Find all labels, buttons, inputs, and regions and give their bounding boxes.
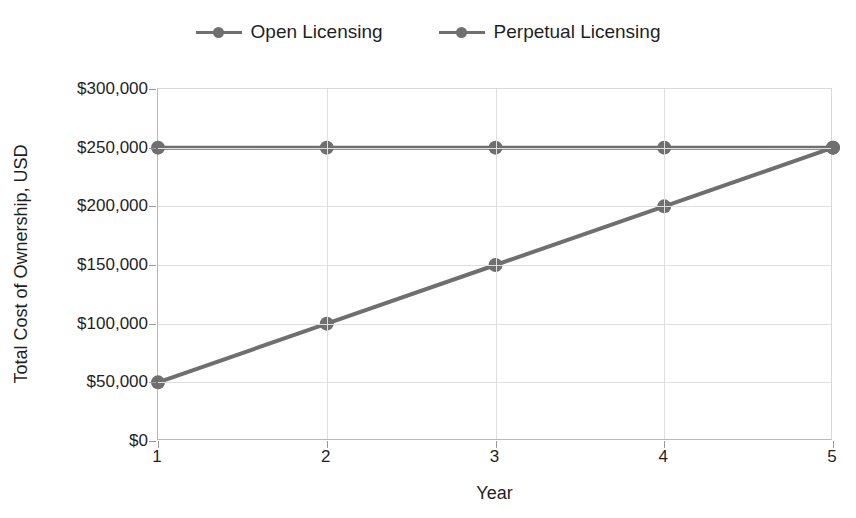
x-axis-tick-label: 5	[802, 448, 856, 465]
y-axis-tick-label: $250,000	[8, 138, 148, 155]
x-axis-tick-labels: 12345	[157, 448, 832, 474]
chart-container: Open Licensing Perpetual Licensing Total…	[0, 0, 856, 518]
gridline-horizontal	[158, 206, 831, 207]
legend-marker-icon	[439, 24, 485, 40]
y-axis-tick-label: $100,000	[8, 314, 148, 331]
y-axis-tick	[149, 89, 156, 90]
x-axis-tick-label: 2	[296, 448, 356, 465]
legend-item-perpetual-licensing[interactable]: Perpetual Licensing	[439, 22, 661, 41]
y-axis-tick-label: $200,000	[8, 197, 148, 214]
plot-area	[157, 88, 832, 440]
y-axis-tick-label: $300,000	[8, 80, 148, 97]
y-axis-tick-labels: $0$50,000$100,000$150,000$200,000$250,00…	[0, 88, 148, 440]
y-axis-tick-label: $150,000	[8, 256, 148, 273]
gridline-vertical	[664, 89, 665, 439]
y-axis-tick	[149, 441, 156, 442]
gridline-vertical	[496, 89, 497, 439]
gridline-horizontal	[158, 265, 831, 266]
legend-item-label: Open Licensing	[251, 22, 383, 41]
y-axis-tick	[149, 265, 156, 266]
gridline-horizontal	[158, 148, 831, 149]
gridline-horizontal	[158, 324, 831, 325]
legend-marker-icon	[196, 24, 242, 40]
y-axis-tick-label: $50,000	[8, 373, 148, 390]
gridline-horizontal	[158, 382, 831, 383]
legend-item-label: Perpetual Licensing	[494, 22, 661, 41]
y-axis-tick	[149, 324, 156, 325]
chart-legend: Open Licensing Perpetual Licensing	[0, 22, 856, 41]
legend-item-open-licensing[interactable]: Open Licensing	[196, 22, 383, 41]
y-axis-tick	[149, 206, 156, 207]
gridline-vertical	[327, 89, 328, 439]
y-axis-tick-label: $0	[8, 432, 148, 449]
x-axis-tick-label: 3	[465, 448, 525, 465]
y-axis-tick	[149, 382, 156, 383]
x-axis-tick-label: 1	[127, 448, 187, 465]
y-axis-tick	[149, 148, 156, 149]
x-axis-tick-label: 4	[633, 448, 693, 465]
x-axis-title: Year	[157, 483, 832, 504]
